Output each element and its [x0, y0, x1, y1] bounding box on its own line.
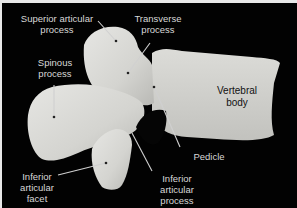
label-spinous-process: Spinous process — [30, 57, 80, 79]
label-transverse-process: Transverse process — [128, 13, 188, 35]
vertebra-figure: Superior articular process Transverse pr… — [0, 0, 297, 208]
label-pedicle: Pedicle — [184, 151, 234, 162]
label-superior-articular-process: Superior articular process — [12, 13, 102, 35]
label-inferior-articular-facet: Inferior articular facet — [14, 171, 60, 204]
label-inferior-articular-process: Inferior articular process — [152, 173, 202, 206]
label-vertebral-body: Vertebral body — [207, 85, 267, 109]
